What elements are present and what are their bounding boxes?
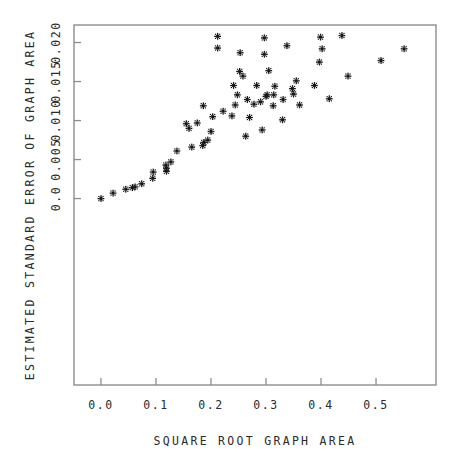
x-tick-label: 0.0 bbox=[88, 398, 114, 412]
x-tick-label: 0.5 bbox=[363, 398, 389, 412]
y-axis-ticks bbox=[74, 43, 81, 199]
data-point-marker bbox=[280, 96, 287, 103]
data-point-marker bbox=[239, 73, 246, 80]
data-point-marker bbox=[290, 91, 297, 98]
data-point-marker bbox=[236, 68, 243, 75]
data-point-marker bbox=[253, 82, 260, 89]
data-point-marker bbox=[230, 82, 237, 89]
plot-frame bbox=[74, 25, 436, 385]
data-point-marker bbox=[316, 59, 323, 66]
data-point-marker bbox=[326, 95, 333, 102]
data-point-marker bbox=[149, 175, 156, 182]
data-point-marker bbox=[188, 144, 195, 151]
data-point-marker bbox=[271, 83, 278, 90]
data-point-marker bbox=[293, 77, 300, 84]
y-tick-label: 0.020 bbox=[49, 21, 63, 64]
data-point-marker bbox=[257, 98, 264, 105]
data-point-marker bbox=[339, 32, 346, 39]
data-point-marker bbox=[261, 51, 268, 58]
data-point-marker bbox=[214, 45, 221, 52]
data-point-marker bbox=[183, 120, 190, 127]
data-point-marker bbox=[122, 186, 129, 193]
x-tick-label: 0.2 bbox=[198, 398, 224, 412]
data-point-markers bbox=[98, 32, 408, 202]
data-point-marker bbox=[319, 45, 326, 52]
data-point-marker bbox=[132, 183, 139, 190]
data-point-marker bbox=[401, 45, 408, 52]
data-point-marker bbox=[261, 34, 268, 41]
x-tick-label: 0.1 bbox=[143, 398, 169, 412]
data-point-marker bbox=[138, 180, 145, 187]
x-axis-ticks bbox=[101, 378, 376, 385]
data-point-marker bbox=[228, 112, 235, 119]
data-point-marker bbox=[209, 113, 216, 120]
y-tick-label: 0.005 bbox=[49, 138, 63, 181]
data-point-marker bbox=[270, 102, 277, 109]
data-point-marker bbox=[150, 169, 157, 176]
data-point-marker bbox=[232, 102, 239, 109]
data-point-marker bbox=[311, 82, 318, 89]
data-point-marker bbox=[242, 133, 249, 140]
data-point-marker bbox=[208, 128, 215, 135]
y-axis-tick-labels: 0.00.0050.0100.0150.020 bbox=[49, 21, 63, 211]
data-point-marker bbox=[289, 85, 296, 92]
data-point-marker bbox=[246, 114, 253, 121]
data-point-marker bbox=[279, 116, 286, 123]
data-point-marker bbox=[244, 96, 251, 103]
data-point-marker bbox=[110, 190, 117, 197]
data-point-marker bbox=[194, 119, 201, 126]
plot-canvas: 0.00.10.20.30.40.5 0.00.0050.0100.0150.0… bbox=[0, 0, 456, 470]
data-point-marker bbox=[204, 137, 211, 144]
data-point-marker bbox=[237, 49, 244, 56]
data-point-marker bbox=[264, 91, 271, 98]
data-point-marker bbox=[234, 91, 241, 98]
data-point-marker bbox=[270, 91, 277, 98]
data-point-marker bbox=[167, 159, 174, 166]
data-point-marker bbox=[345, 73, 352, 80]
data-point-marker bbox=[173, 148, 180, 155]
data-point-marker bbox=[250, 101, 257, 108]
data-point-marker bbox=[162, 162, 169, 169]
data-point-marker bbox=[98, 195, 105, 202]
scatter-plot-figure: 0.00.10.20.30.40.5 0.00.0050.0100.0150.0… bbox=[0, 0, 456, 470]
y-tick-label: 0.015 bbox=[49, 60, 63, 103]
data-point-marker bbox=[317, 34, 324, 41]
data-point-marker bbox=[220, 108, 227, 115]
data-point-marker bbox=[284, 42, 291, 49]
y-axis-title: ESTIMATED STANDARD ERROR OF GRAPH AREA bbox=[23, 30, 37, 381]
data-point-marker bbox=[378, 57, 385, 64]
data-point-marker bbox=[200, 102, 207, 109]
y-tick-label: 0.0 bbox=[49, 186, 63, 212]
data-point-marker bbox=[214, 33, 221, 40]
x-tick-label: 0.3 bbox=[253, 398, 279, 412]
x-tick-label: 0.4 bbox=[308, 398, 334, 412]
x-axis-title: SQUARE ROOT GRAPH AREA bbox=[154, 434, 357, 448]
data-point-marker bbox=[296, 102, 303, 109]
x-axis-tick-labels: 0.00.10.20.30.40.5 bbox=[88, 398, 389, 412]
data-point-marker bbox=[259, 127, 266, 134]
data-point-marker bbox=[265, 67, 272, 74]
y-tick-label: 0.010 bbox=[49, 99, 63, 142]
